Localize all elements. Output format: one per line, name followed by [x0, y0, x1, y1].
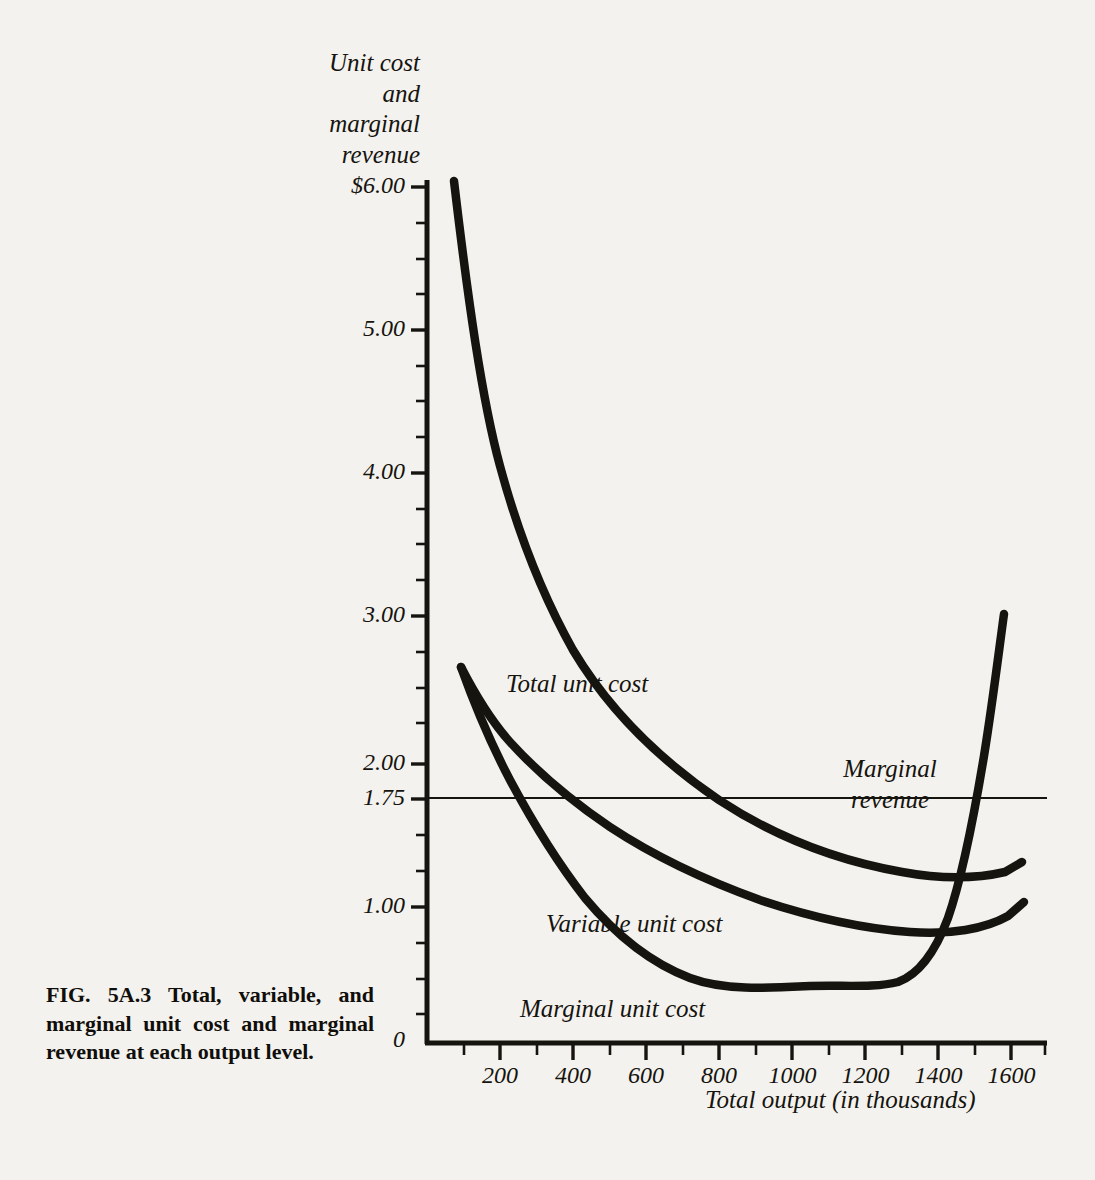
y-tick-label-1: 1.00	[260, 892, 405, 919]
x-tick-label-200: 200	[460, 1062, 540, 1089]
x-tick-label-1600: 1600	[970, 1062, 1053, 1089]
x-tick-label-1400: 1400	[897, 1062, 980, 1089]
y-tick-label-5: 5.00	[260, 315, 405, 342]
x-tick-label-800: 800	[679, 1062, 759, 1089]
marginal-unit-cost-label: Marginal unit cost	[520, 993, 705, 1024]
figure-caption: FIG. 5A.3 Total, variable, and marginal …	[46, 981, 374, 1067]
x-tick-label-600: 600	[606, 1062, 686, 1089]
x-tick-label-400: 400	[533, 1062, 613, 1089]
variable-unit-cost-label: Variable unit cost	[546, 908, 722, 939]
x-axis-title: Total output (in thousands)	[705, 1086, 976, 1114]
y-tick-label-175: 1.75	[260, 784, 405, 811]
total-unit-cost-label: Total unit cost	[506, 668, 648, 699]
marginal-revenue-label: Marginal revenue	[820, 753, 960, 816]
x-tick-label-1200: 1200	[824, 1062, 907, 1089]
y-tick-label-6: $6.00	[260, 172, 405, 199]
y-tick-label-2: 2.00	[260, 749, 405, 776]
y-tick-label-3: 3.00	[260, 601, 405, 628]
x-tick-label-1000: 1000	[751, 1062, 834, 1089]
y-tick-label-4: 4.00	[260, 458, 405, 485]
figure-5a3: Unit cost and marginal revenue	[0, 0, 1095, 1180]
